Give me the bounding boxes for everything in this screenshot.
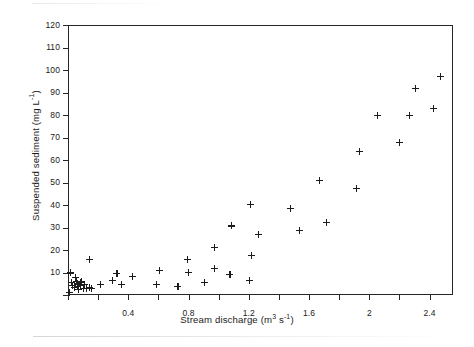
x-tick-1.2 [249, 295, 250, 300]
data-point [316, 177, 323, 184]
page-rule-top [32, 3, 166, 4]
page-rule-bottom [33, 336, 439, 337]
x-tick-0.6 [158, 295, 159, 300]
data-point [86, 256, 93, 263]
y-axis-title: Suspended sediment (mg L-1) [30, 36, 41, 276]
data-point [430, 105, 437, 112]
data-point [374, 112, 381, 119]
x-tick-2 [369, 295, 370, 300]
x-tick-1.8 [339, 295, 340, 300]
data-point [226, 271, 233, 278]
data-point [356, 148, 363, 155]
data-point [211, 244, 218, 251]
data-point [174, 283, 181, 290]
data-point [437, 73, 444, 80]
data-point [353, 185, 360, 192]
data-point [323, 219, 330, 226]
x-tick-0.4 [128, 295, 129, 300]
data-point [248, 252, 255, 259]
data-point [296, 227, 303, 234]
figure-scatter-plot: 102030405060708090100110120 0.40.81.21.6… [0, 0, 474, 347]
data-point [396, 139, 403, 146]
x-axis-title: Stream discharge (m3 s-1) [0, 314, 474, 325]
x-tick-1 [219, 295, 220, 300]
data-point [153, 281, 160, 288]
data-point [118, 281, 125, 288]
y-tick-label-120: 120 [30, 20, 60, 30]
x-tick-1.4 [279, 295, 280, 300]
data-point [228, 222, 235, 229]
data-point [88, 285, 95, 292]
data-point [211, 265, 218, 272]
data-point [184, 256, 191, 263]
x-tick-0.8 [189, 295, 190, 300]
data-point [287, 205, 294, 212]
x-tick-1.6 [309, 295, 310, 300]
data-point [255, 231, 262, 238]
data-point [406, 112, 413, 119]
y-tick-label-text: 120 [34, 20, 60, 30]
data-point [156, 267, 163, 274]
data-point [113, 270, 120, 277]
data-point [185, 269, 192, 276]
data-point [97, 281, 104, 288]
data-point [201, 279, 208, 286]
x-tick-0.2 [98, 295, 99, 300]
data-point [412, 85, 419, 92]
scatter-points-layer [68, 25, 453, 295]
x-tick-2.2 [399, 295, 400, 300]
data-point [109, 277, 116, 284]
x-tick-2.4 [430, 295, 431, 300]
data-point [247, 201, 254, 208]
data-point [246, 277, 253, 284]
data-point [129, 273, 136, 280]
